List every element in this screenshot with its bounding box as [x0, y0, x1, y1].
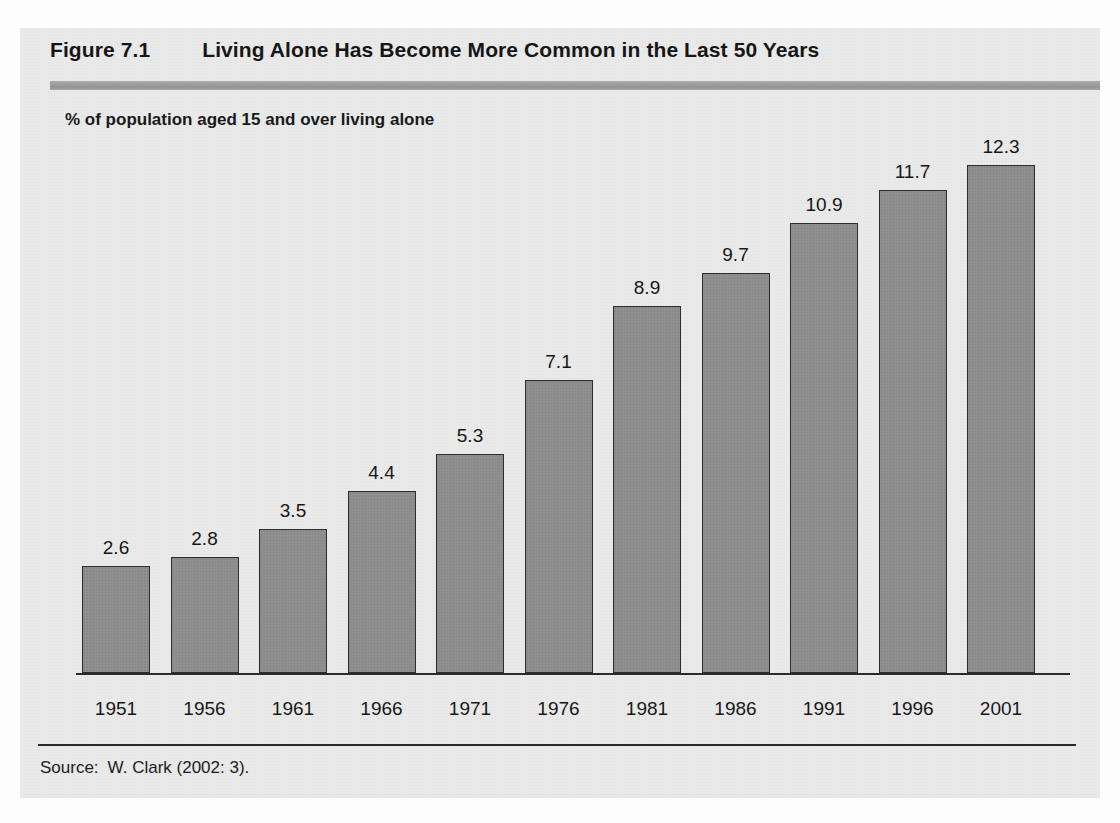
x-tick-label: 1961 — [259, 698, 327, 720]
bar-value-label: 11.7 — [895, 161, 931, 183]
bar-rect — [259, 529, 327, 674]
bar-rect — [436, 454, 504, 673]
x-tick-label: 1986 — [702, 698, 770, 720]
bar-1991: 10.9 — [790, 223, 858, 673]
bar-1981: 8.9 — [613, 306, 681, 673]
bar-rect — [171, 557, 239, 673]
bar-rect — [702, 273, 770, 673]
footer-divider-rule — [38, 744, 1076, 746]
x-tick-label: 1951 — [82, 698, 150, 720]
chart-subtitle: % of population aged 15 and over living … — [65, 110, 434, 130]
bar-1971: 5.3 — [436, 454, 504, 673]
plot-area: 2.62.83.54.45.37.18.99.710.911.712.3 — [58, 128, 1072, 673]
x-tick-label: 1971 — [436, 698, 504, 720]
bars-layer: 2.62.83.54.45.37.18.99.710.911.712.3 — [58, 128, 1072, 673]
x-tick-label: 1981 — [613, 698, 681, 720]
bar-2001: 12.3 — [967, 165, 1035, 673]
bar-1961: 3.5 — [259, 529, 327, 674]
source-note: Source:W. Clark (2002: 3). — [40, 758, 249, 778]
figure-panel: Figure 7.1 Living Alone Has Become More … — [20, 28, 1100, 798]
bar-1956: 2.8 — [171, 557, 239, 673]
x-tick-label: 1976 — [525, 698, 593, 720]
bar-1996: 11.7 — [879, 190, 947, 673]
scanned-page: Figure 7.1 Living Alone Has Become More … — [0, 0, 1120, 823]
x-tick-label: 1991 — [790, 698, 858, 720]
x-tick-label: 1956 — [171, 698, 239, 720]
figure-title: Living Alone Has Become More Common in t… — [202, 38, 819, 62]
x-tick-label: 1996 — [879, 698, 947, 720]
source-text: W. Clark (2002: 3). — [108, 758, 250, 777]
bar-rect — [82, 566, 150, 673]
source-label: Source: — [40, 758, 99, 777]
bar-1951: 2.6 — [82, 566, 150, 673]
x-axis-line — [76, 673, 1070, 675]
bar-rect — [790, 223, 858, 673]
x-tick-label: 1966 — [348, 698, 416, 720]
x-tick-label: 2001 — [967, 698, 1035, 720]
bar-value-label: 12.3 — [983, 136, 1020, 158]
bar-value-label: 3.5 — [280, 500, 306, 522]
bar-value-label: 7.1 — [545, 351, 571, 373]
bar-value-label: 8.9 — [634, 277, 660, 299]
bar-1986: 9.7 — [702, 273, 770, 673]
bar-rect — [525, 380, 593, 673]
bar-1976: 7.1 — [525, 380, 593, 673]
bar-value-label: 2.8 — [191, 528, 217, 550]
bar-1966: 4.4 — [348, 491, 416, 673]
figure-header: Figure 7.1 Living Alone Has Become More … — [50, 38, 1070, 72]
bar-rect — [348, 491, 416, 673]
bar-rect — [967, 165, 1035, 673]
header-divider-rule — [50, 81, 1100, 90]
bar-rect — [613, 306, 681, 673]
bar-rect — [879, 190, 947, 673]
bar-value-label: 2.6 — [103, 537, 129, 559]
figure-number: Figure 7.1 — [50, 38, 150, 62]
bar-value-label: 9.7 — [722, 244, 748, 266]
bar-value-label: 10.9 — [806, 194, 843, 216]
bar-value-label: 5.3 — [457, 425, 483, 447]
bar-value-label: 4.4 — [368, 462, 394, 484]
x-axis-tick-labels: 1951195619611966197119761981198619911996… — [58, 698, 1072, 728]
